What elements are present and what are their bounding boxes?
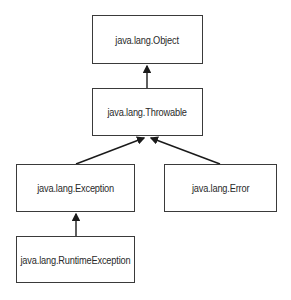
node-label: java.lang.Exception xyxy=(37,182,114,194)
node-exception: java.lang.Exception xyxy=(16,164,135,212)
node-object: java.lang.Object xyxy=(92,15,203,64)
node-label: java.lang.Error xyxy=(192,182,249,194)
node-label: java.lang.RuntimeException xyxy=(21,254,131,266)
node-label: java.lang.Throwable xyxy=(108,106,187,118)
node-throwable: java.lang.Throwable xyxy=(92,88,203,136)
arrow-exception-to-throwable xyxy=(76,138,144,164)
node-label: java.lang.Object xyxy=(116,34,179,46)
node-runtime-exception: java.lang.RuntimeException xyxy=(16,236,135,283)
arrow-error-to-throwable xyxy=(151,138,220,164)
node-error: java.lang.Error xyxy=(164,164,277,212)
